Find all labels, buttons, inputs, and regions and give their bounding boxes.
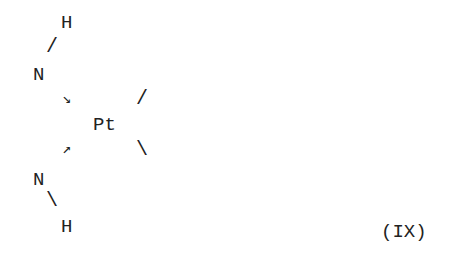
bond-pt-lower-right: \ — [136, 140, 148, 160]
bond-pt-upper-right: / — [136, 89, 148, 109]
atom-n-bottom: N — [33, 171, 44, 190]
atom-pt: Pt — [93, 116, 116, 135]
atom-h-top: H — [61, 14, 72, 33]
dative-arrow-up-right-icon: ↗ — [62, 142, 71, 157]
dative-arrow-down-right-icon: ↘ — [62, 92, 71, 107]
structure-label: (IX) — [381, 223, 427, 242]
atom-n-top: N — [33, 66, 44, 85]
bond-h-n-top: / — [46, 37, 58, 57]
atom-h-bottom: H — [61, 218, 72, 237]
bond-n-h-bottom: \ — [46, 191, 58, 211]
